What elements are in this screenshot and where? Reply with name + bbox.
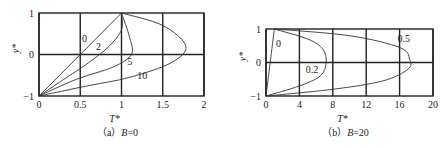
x-tick-label: 1	[119, 99, 124, 110]
curve-label: 0.5	[398, 33, 411, 44]
chart-panel-a: 00.511.5210−1y*T*（a）B=002510	[10, 8, 207, 139]
y-tick-label: 1	[29, 8, 34, 19]
curve-label: 10	[137, 70, 147, 81]
x-tick-label: 8	[330, 99, 335, 110]
curve-label: 0	[276, 38, 281, 49]
figure-canvas: 00.511.5210−1y*T*（a）B=002510 04812162010…	[0, 0, 447, 148]
curve-label: 0.2	[306, 64, 319, 75]
x-tick-label: 4	[297, 99, 302, 110]
panel-caption: （b）B=20	[322, 127, 369, 138]
x-tick-label: 1.5	[157, 99, 170, 110]
x-axis-label: T*	[109, 113, 120, 124]
y-tick-label: 0	[256, 57, 261, 68]
curve-label: 0	[82, 33, 87, 44]
y-axis-label: y*	[237, 52, 248, 62]
curve-label: 5	[127, 56, 132, 67]
curve-label: 2	[96, 41, 101, 52]
y-tick-label: −1	[250, 91, 261, 102]
x-tick-label: 20	[428, 99, 438, 110]
x-tick-label: 2	[202, 99, 207, 110]
y-tick-label: −1	[23, 91, 34, 102]
x-tick-label: 0	[264, 99, 269, 110]
x-tick-label: 0.5	[74, 99, 87, 110]
y-axis-label: y*	[10, 44, 21, 54]
y-tick-label: 0	[29, 49, 34, 60]
panel-caption: （a）B=0	[97, 127, 138, 138]
x-tick-label: 16	[395, 99, 405, 110]
chart-panel-b: 04812162010−1y*T*（b）B=2000.20.5	[237, 24, 438, 139]
x-axis-label: T*	[337, 113, 348, 124]
x-tick-label: 0	[37, 99, 42, 110]
x-tick-label: 12	[361, 99, 371, 110]
y-tick-label: 1	[256, 24, 261, 35]
